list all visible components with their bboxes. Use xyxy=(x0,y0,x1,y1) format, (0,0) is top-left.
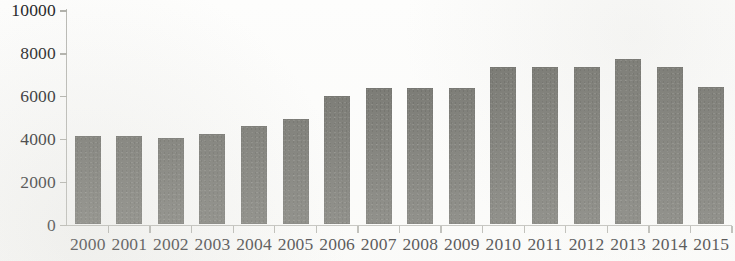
x-axis-tick-label: 2001 xyxy=(106,236,152,254)
x-axis-tick-label: 2004 xyxy=(231,236,277,254)
bar xyxy=(283,119,309,224)
y-axis-tick xyxy=(60,182,67,183)
bar xyxy=(490,67,516,224)
bar xyxy=(449,88,475,224)
x-axis-tick-label: 2014 xyxy=(647,236,693,254)
y-axis-tick-label: 2000 xyxy=(0,174,56,192)
x-axis-tick xyxy=(690,226,691,233)
y-axis-tick xyxy=(60,53,67,54)
bar xyxy=(116,136,142,224)
y-axis-tick-label: 10000 xyxy=(0,2,56,20)
x-axis-tick-label: 2009 xyxy=(439,236,485,254)
x-axis-tick-label: 2013 xyxy=(605,236,651,254)
x-axis-tick-label: 2010 xyxy=(480,236,526,254)
y-axis-tick xyxy=(60,10,67,11)
bar xyxy=(241,126,267,224)
x-axis-tick-label: 2003 xyxy=(189,236,235,254)
x-axis-tick xyxy=(274,226,275,233)
x-axis-tick xyxy=(440,226,441,233)
x-axis-tick xyxy=(731,226,732,233)
x-axis-tick-label: 2007 xyxy=(356,236,402,254)
x-axis-tick xyxy=(149,226,150,233)
bar xyxy=(407,88,433,224)
x-axis-tick-label: 2015 xyxy=(688,236,734,254)
x-axis-tick-label: 2012 xyxy=(564,236,610,254)
bar xyxy=(615,59,641,224)
y-axis-tick xyxy=(60,225,67,226)
bar-chart: 1000080006000400020000 20002001200220032… xyxy=(0,0,735,261)
y-axis-tick-label: 4000 xyxy=(0,131,56,149)
x-axis-tick xyxy=(191,226,192,233)
x-axis-tick-label: 2006 xyxy=(314,236,360,254)
x-axis-tick xyxy=(482,226,483,233)
y-axis-line xyxy=(66,9,67,226)
y-axis-tick xyxy=(60,96,67,97)
bar xyxy=(698,87,724,224)
bar xyxy=(574,67,600,224)
x-axis-tick-label: 2005 xyxy=(273,236,319,254)
bar xyxy=(366,88,392,224)
x-axis-tick xyxy=(565,226,566,233)
x-axis-tick xyxy=(648,226,649,233)
x-axis-tick-label: 2002 xyxy=(148,236,194,254)
x-axis-tick xyxy=(524,226,525,233)
x-axis-tick xyxy=(607,226,608,233)
bar xyxy=(657,67,683,224)
bar xyxy=(158,138,184,224)
x-axis-tick-label: 2000 xyxy=(65,236,111,254)
y-axis-tick-label: 8000 xyxy=(0,45,56,63)
y-axis-tick-label: 6000 xyxy=(0,88,56,106)
bar xyxy=(324,96,350,224)
x-axis-tick xyxy=(233,226,234,233)
x-axis-tick xyxy=(108,226,109,233)
x-axis-tick-label: 2008 xyxy=(397,236,443,254)
x-axis-tick xyxy=(399,226,400,233)
plot-area: 1000080006000400020000 20002001200220032… xyxy=(0,0,735,261)
y-axis-tick xyxy=(60,139,67,140)
x-axis-tick-label: 2011 xyxy=(522,236,568,254)
bar xyxy=(75,136,101,224)
bar xyxy=(199,134,225,224)
y-axis-tick-label: 0 xyxy=(0,217,56,235)
x-axis-tick xyxy=(316,226,317,233)
x-axis-tick xyxy=(357,226,358,233)
bar xyxy=(532,67,558,224)
